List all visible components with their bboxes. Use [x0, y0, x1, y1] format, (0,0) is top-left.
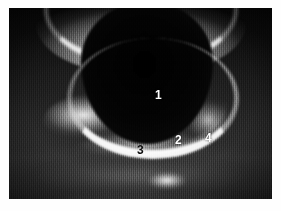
corner-vignette	[9, 8, 272, 199]
annotation-label-1: 1	[155, 89, 162, 101]
annotation-label-2: 2	[175, 134, 182, 146]
annotation-label-4: 4	[205, 132, 212, 144]
figure-root: 1 2 3 4	[0, 0, 281, 211]
ultrasound-scan-frame[interactable]: 1 2 3 4	[9, 8, 272, 199]
annotation-label-3: 3	[137, 144, 144, 156]
